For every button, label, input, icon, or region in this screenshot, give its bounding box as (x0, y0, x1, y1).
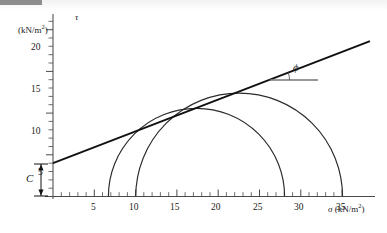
y-tick-label-5: 5 (38, 168, 43, 178)
y-axis-units-label: (kN/m2) (18, 24, 48, 35)
x-axis-title: σ (kN/m2) (328, 203, 364, 214)
x-tick-label-25: 25 (253, 203, 263, 213)
x-axis-minor-ticks (61, 192, 334, 196)
x-axis-major-ticks (94, 190, 342, 197)
phi-angle-arc (288, 73, 289, 81)
x-tick-label-10: 10 (129, 203, 139, 213)
cohesion-label: C (26, 173, 33, 184)
x-tick-label-30: 30 (294, 203, 304, 213)
y-tick-label-10: 10 (31, 127, 41, 137)
mohr-circle-2 (136, 93, 343, 196)
y-tick-label-15: 15 (31, 85, 41, 95)
friction-angle-label: ϕ (293, 62, 299, 73)
x-tick-label-15: 15 (170, 203, 180, 213)
y-axis-symbol-label: τ (75, 13, 78, 22)
failure-envelope-line (53, 41, 370, 163)
y-axis-minor-ticks (49, 21, 54, 188)
y-tick-label-20: 20 (31, 43, 41, 53)
mohr-circle-1 (108, 108, 284, 196)
y-axis-major-ticks (46, 30, 53, 155)
x-tick-label-20: 20 (211, 203, 221, 213)
mohr-circle-diagram (0, 0, 387, 233)
x-tick-label-5: 5 (91, 203, 96, 213)
